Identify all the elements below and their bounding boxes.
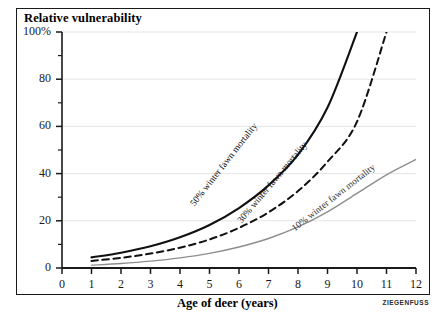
x-tick-label-5: 5: [200, 277, 220, 292]
x-tick-label-10: 10: [347, 277, 367, 292]
x-tick-label-11: 11: [377, 277, 397, 292]
x-tick-label-1: 1: [82, 277, 102, 292]
x-tick-label-2: 2: [111, 277, 131, 292]
chart-frame: [16, 8, 430, 295]
x-tick-label-8: 8: [288, 277, 308, 292]
x-tick-label-0: 0: [52, 277, 72, 292]
x-tick-label-12: 12: [406, 277, 426, 292]
credit-attribution: ZIEGENFUSS: [382, 299, 429, 306]
y-tick-label-80: 80: [14, 71, 51, 86]
x-tick-label-9: 9: [318, 277, 338, 292]
x-tick-label-4: 4: [170, 277, 190, 292]
x-tick-label-3: 3: [141, 277, 161, 292]
y-tick-label-100: 100%: [14, 24, 51, 39]
figure-container: Relative vulnerability 100%806040200 012…: [0, 0, 445, 325]
y-tick-label-0: 0: [14, 260, 51, 275]
x-tick-label-7: 7: [259, 277, 279, 292]
x-tick-label-6: 6: [229, 277, 249, 292]
y-tick-label-60: 60: [14, 118, 51, 133]
y-tick-label-20: 20: [14, 213, 51, 228]
x-axis-title: Age of deer (years): [177, 296, 278, 311]
y-tick-label-40: 40: [14, 166, 51, 181]
